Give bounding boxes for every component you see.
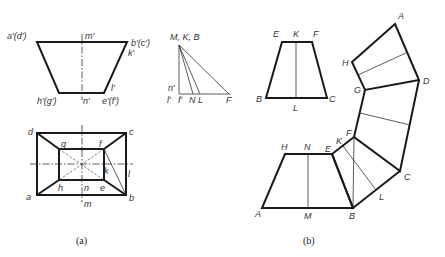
- label-B: B: [349, 211, 355, 221]
- diagonal-f-h: [59, 149, 104, 180]
- label-l: l: [128, 169, 131, 179]
- label-m: m: [84, 199, 92, 209]
- label-F: F: [346, 128, 352, 138]
- label-f: f: [99, 139, 103, 149]
- label-A-top: A: [397, 11, 404, 21]
- label-g: g: [61, 139, 66, 149]
- label-c: c: [129, 127, 134, 137]
- edge-c-f: [104, 133, 126, 149]
- edge-a-h: [37, 180, 59, 195]
- label-C: C: [404, 172, 411, 182]
- tl-line-L: [179, 45, 200, 94]
- label-D: D: [423, 76, 430, 86]
- label-H-top: H: [342, 58, 349, 68]
- label-C-face: C: [329, 94, 336, 104]
- dev-face-HEBA: [262, 154, 353, 208]
- dev-face-AHGD: [352, 24, 419, 90]
- technical-drawing: a'(d') m' b'(c') k' l' h'(g') n' e'(f') …: [0, 0, 445, 257]
- label-e-f-prime: e'(f'): [102, 96, 119, 106]
- label-M: M: [304, 211, 312, 221]
- label-b: b: [129, 193, 134, 203]
- caption-b: (b): [303, 235, 315, 247]
- label-apex-MKB: M, K, B: [170, 32, 200, 42]
- label-B-face: B: [256, 94, 262, 104]
- caption-a: (a): [76, 235, 87, 247]
- dev-line-K-L: [343, 146, 376, 190]
- label-d: d: [28, 127, 34, 137]
- face-outline: [266, 42, 327, 98]
- label-h: h: [58, 183, 63, 193]
- label-l-prime-tl: l': [167, 95, 171, 105]
- edge-d-g: [37, 133, 59, 149]
- dev-face-FCBE: [332, 137, 400, 208]
- dev-line-mid: [360, 113, 410, 125]
- label-F-face: F: [313, 29, 319, 39]
- label-E: E: [325, 144, 332, 154]
- label-E-face: E: [273, 29, 280, 39]
- panel-a: a'(d') m' b'(c') k' l' h'(g') n' e'(f') …: [7, 31, 232, 247]
- label-L-tl: L: [198, 95, 203, 105]
- label-n-prime: n': [83, 96, 90, 106]
- label-n-prime-tl: n': [168, 83, 175, 93]
- label-L-face: L: [293, 103, 298, 113]
- label-a-d-prime: a'(d'): [7, 31, 26, 41]
- label-h-g-prime: h'(g'): [37, 96, 56, 106]
- dev-line-F-B: [353, 137, 354, 208]
- label-n: n: [84, 183, 89, 193]
- top-view: d c g f k l h n e a b m: [26, 125, 134, 209]
- label-k: k: [104, 166, 109, 176]
- label-F-tl: F: [226, 95, 232, 105]
- dev-face-GDCF: [354, 80, 419, 171]
- label-m-prime: m': [85, 31, 94, 41]
- label-a: a: [26, 192, 31, 202]
- label-l-prime: l': [111, 83, 115, 93]
- label-e: e: [100, 183, 105, 193]
- tl-line-F: [179, 45, 229, 94]
- label-N: N: [304, 142, 311, 152]
- label-A: A: [254, 209, 261, 219]
- dev-line-top: [358, 52, 408, 75]
- front-view: a'(d') m' b'(c') k' l' h'(g') n' e'(f'): [7, 31, 150, 106]
- development: A H D G F K E C L H N A M B: [254, 11, 430, 221]
- true-length-diagram: M, K, B n' l' f' N L F: [167, 32, 232, 105]
- label-N-tl: N: [189, 95, 196, 105]
- label-L: L: [379, 192, 384, 202]
- label-K-face: K: [293, 29, 300, 39]
- label-K: K: [336, 136, 343, 146]
- label-k-prime: k': [128, 48, 135, 58]
- label-b-c-prime: b'(c'): [131, 38, 150, 48]
- label-f-prime-tl: f': [178, 95, 183, 105]
- label-G: G: [354, 85, 361, 95]
- panel-b: E K F B L C A H D G F K: [254, 11, 430, 247]
- face-true-shape: E K F B L C: [256, 29, 336, 113]
- label-H: H: [281, 142, 288, 152]
